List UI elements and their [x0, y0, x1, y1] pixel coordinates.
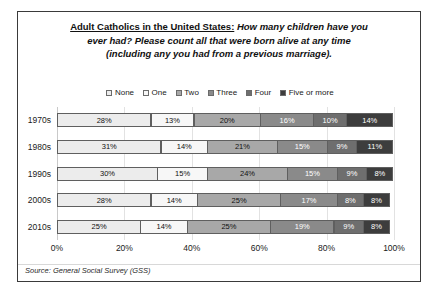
bar-segment-two[interactable]: 25%: [197, 193, 281, 207]
chart-frame: Adult Catholics in the United States: Ho…: [17, 11, 421, 282]
legend-swatch-icon: [208, 90, 214, 96]
bar-segment-two[interactable]: 24%: [207, 167, 288, 181]
bar-segment-none[interactable]: 28%: [57, 193, 151, 207]
chart-title-line-2: ever had? Please count all that were bor…: [30, 34, 408, 48]
bar-segment-two[interactable]: 20%: [194, 113, 261, 127]
legend-swatch-icon: [176, 90, 182, 96]
source-divider: [18, 264, 420, 265]
legend-item-one[interactable]: One: [143, 88, 167, 97]
chart-title: Adult Catholics in the United States: Ho…: [30, 20, 408, 61]
category-label-2000s: 2000s: [17, 195, 51, 205]
legend-item-label: Four: [255, 88, 271, 97]
bar-segment-five-or-more[interactable]: 8%: [363, 220, 390, 234]
gridline: [394, 107, 395, 240]
bar-segment-one[interactable]: 14%: [161, 140, 208, 154]
category-label-1970s: 1970s: [17, 115, 51, 125]
bar-segment-three[interactable]: 19%: [270, 220, 334, 234]
bar-segment-none[interactable]: 31%: [57, 140, 161, 154]
bar-row: 31%14%21%15%9%11%: [57, 140, 394, 154]
bar-segment-three[interactable]: 15%: [277, 140, 328, 154]
legend-item-label: None: [115, 88, 134, 97]
chart-title-line-1: Adult Catholics in the United States: Ho…: [30, 20, 408, 34]
bar-row: 28%13%20%16%10%14%: [57, 113, 394, 127]
bar-segment-three[interactable]: 16%: [260, 113, 314, 127]
legend-item-label: Two: [184, 88, 199, 97]
legend-swatch-icon: [143, 90, 149, 96]
legend-item-two[interactable]: Two: [176, 88, 199, 97]
x-axis-tick-label: 0%: [51, 243, 63, 253]
category-label-2010s: 2010s: [17, 222, 51, 232]
bar-segment-two[interactable]: 21%: [207, 140, 278, 154]
legend-swatch-icon: [280, 90, 286, 96]
x-axis: 0%20%40%60%80%100%: [57, 243, 394, 255]
legend-item-label: Three: [216, 88, 237, 97]
bar-segment-one[interactable]: 14%: [140, 220, 187, 234]
bar-segment-three[interactable]: 15%: [287, 167, 338, 181]
bar-row: 30%15%24%15%9%8%: [57, 167, 394, 181]
bar-segment-four[interactable]: 9%: [334, 220, 364, 234]
bar-row: 28%14%25%17%8%8%: [57, 193, 394, 207]
legend-swatch-icon: [246, 90, 252, 96]
chart-legend: NoneOneTwoThreeFourFive or more: [18, 88, 422, 97]
category-label-1990s: 1990s: [17, 169, 51, 179]
legend-item-five-or-more[interactable]: Five or more: [280, 88, 333, 97]
category-label-1980s: 1980s: [17, 142, 51, 152]
x-axis-tick-label: 60%: [251, 243, 268, 253]
bar-segment-four[interactable]: 9%: [327, 140, 357, 154]
legend-item-label: Five or more: [289, 88, 334, 97]
bar-segment-three[interactable]: 17%: [280, 193, 337, 207]
bar-segment-one[interactable]: 14%: [151, 193, 198, 207]
source-note: Source: General Social Survey (GSS): [25, 266, 150, 275]
chart-title-lead: Adult Catholics in the United States:: [70, 21, 234, 32]
bar-segment-five-or-more[interactable]: 11%: [356, 140, 393, 154]
bar-segment-none[interactable]: 30%: [57, 167, 158, 181]
bar-segment-five-or-more[interactable]: 8%: [363, 193, 390, 207]
bar-segment-none[interactable]: 28%: [57, 113, 151, 127]
legend-item-four[interactable]: Four: [246, 88, 271, 97]
bar-segment-two[interactable]: 25%: [187, 220, 271, 234]
bar-segment-none[interactable]: 25%: [57, 220, 141, 234]
bar-segment-four[interactable]: 8%: [337, 193, 364, 207]
bar-segment-four[interactable]: 10%: [313, 113, 347, 127]
legend-item-label: One: [152, 88, 167, 97]
bar-segment-five-or-more[interactable]: 14%: [346, 113, 393, 127]
bar-row: 25%14%25%19%9%8%: [57, 220, 394, 234]
legend-item-none[interactable]: None: [106, 88, 134, 97]
bar-segment-one[interactable]: 13%: [151, 113, 195, 127]
x-axis-tick-label: 100%: [383, 243, 405, 253]
chart-title-question-part-1: How many children have you: [234, 21, 368, 32]
x-axis-tick-label: 40%: [183, 243, 200, 253]
x-axis-tick-label: 80%: [318, 243, 335, 253]
bar-segment-one[interactable]: 15%: [157, 167, 208, 181]
bar-segment-four[interactable]: 9%: [337, 167, 367, 181]
plot-area: 28%13%20%16%10%14%1970s31%14%21%15%9%11%…: [57, 107, 394, 240]
x-axis-tick-label: 20%: [116, 243, 133, 253]
legend-item-three[interactable]: Three: [208, 88, 237, 97]
chart-title-line-3: (including any you had from a previous m…: [30, 47, 408, 61]
bar-segment-five-or-more[interactable]: 8%: [366, 167, 393, 181]
legend-swatch-icon: [106, 90, 112, 96]
